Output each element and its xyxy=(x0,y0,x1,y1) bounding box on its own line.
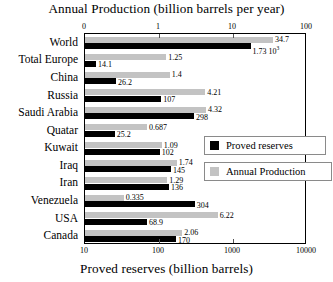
bar-annual-production xyxy=(85,230,182,236)
bar-proved-reserves xyxy=(85,43,251,49)
bar-proved-reserves xyxy=(85,96,161,102)
top-tick-label: 0 xyxy=(82,21,86,32)
bar-proved-reserves xyxy=(85,219,147,225)
bar-annual-production xyxy=(85,195,124,201)
bar-annual-production xyxy=(85,142,162,148)
category-label: Kuwait xyxy=(44,141,78,153)
legend-item-annual-production: Annual Production xyxy=(204,162,332,181)
top-axis-title: Annual Production (billion barrels per y… xyxy=(0,1,333,17)
bar-annual-production xyxy=(85,160,177,166)
category-label: World xyxy=(50,36,78,48)
legend-label-proved-reserves: Proved reserves xyxy=(226,140,293,151)
category-label: Russia xyxy=(47,89,78,101)
legend-swatch-proved-reserves xyxy=(210,141,219,150)
value-label-proved-reserves: 136 xyxy=(169,184,183,192)
value-label-proved-reserves: 26.2 xyxy=(116,79,132,87)
value-label-proved-reserves: 145 xyxy=(171,167,185,175)
bar-proved-reserves xyxy=(85,201,195,207)
value-label-proved-reserves: 14.1 xyxy=(96,61,112,69)
bar-proved-reserves xyxy=(85,149,160,155)
category-label: USA xyxy=(55,212,78,224)
bar-proved-reserves xyxy=(85,78,116,84)
bottom-tick-label: 100 xyxy=(152,245,164,256)
bottom-tick-mark xyxy=(159,239,160,243)
top-tick-mark xyxy=(159,34,160,38)
category-label: Iran xyxy=(59,176,78,188)
top-tick-label: 1 xyxy=(156,21,160,32)
value-label-annual-production: 1.4 xyxy=(170,71,182,79)
bar-proved-reserves xyxy=(85,184,169,190)
legend-swatch-annual-production xyxy=(210,167,219,176)
bar-proved-reserves xyxy=(85,166,171,172)
value-label-annual-production: 0.687 xyxy=(147,124,167,132)
top-tick-mark xyxy=(233,34,234,38)
top-tick-label: 100 xyxy=(300,21,312,32)
category-label: Saudi Arabia xyxy=(18,106,78,118)
value-label-annual-production: 4.21 xyxy=(205,89,221,97)
bar-annual-production xyxy=(85,107,206,113)
value-label-annual-production: 4.32 xyxy=(206,106,222,114)
bottom-axis-title: Proved reserves (billion barrels) xyxy=(0,261,333,277)
category-labels: WorldTotal EuropeChinaRussiaSaudi Arabia… xyxy=(0,33,81,244)
category-label: Quatar xyxy=(47,124,78,136)
value-label-annual-production: 1.25 xyxy=(166,54,182,62)
category-label: Canada xyxy=(44,229,78,241)
bar-proved-reserves xyxy=(85,113,194,119)
category-label: Total Europe xyxy=(18,53,78,65)
bottom-tick-mark xyxy=(233,239,234,243)
value-label-proved-reserves: 170 xyxy=(176,237,190,243)
bottom-tick-label: 10000 xyxy=(296,245,316,256)
category-label: Iraq xyxy=(59,159,78,171)
legend-label-annual-production: Annual Production xyxy=(226,166,306,177)
category-label: Venezuela xyxy=(31,194,78,206)
bar-annual-production xyxy=(85,72,170,78)
top-axis-ticks: 0110100 xyxy=(0,21,333,32)
bottom-axis-ticks: 10100100010000 xyxy=(0,245,333,256)
bar-proved-reserves xyxy=(85,131,115,137)
value-label-proved-reserves: 102 xyxy=(160,149,174,157)
bar-proved-reserves xyxy=(85,61,96,67)
top-tick-label: 10 xyxy=(228,21,236,32)
value-label-proved-reserves: 298 xyxy=(194,114,208,122)
legend-item-proved-reserves: Proved reserves xyxy=(204,136,326,155)
bar-annual-production xyxy=(85,37,273,43)
value-label-annual-production: 6.22 xyxy=(218,212,234,220)
value-label-proved-reserves: 68.9 xyxy=(147,219,163,227)
bottom-tick-label: 10 xyxy=(80,245,88,256)
value-label-proved-reserves: 25.2 xyxy=(115,131,131,139)
value-label-proved-reserves: 304 xyxy=(195,202,209,210)
value-label-proved-reserves: 1.73 103 xyxy=(251,44,280,56)
bottom-tick-label: 1000 xyxy=(224,245,240,256)
bar-annual-production xyxy=(85,89,205,95)
bar-annual-production xyxy=(85,124,147,130)
bar-annual-production xyxy=(85,177,167,183)
value-label-proved-reserves: 107 xyxy=(161,96,175,104)
category-label: China xyxy=(51,71,78,83)
chart-figure: Annual Production (billion barrels per y… xyxy=(0,0,333,282)
bar-proved-reserves xyxy=(85,236,176,242)
